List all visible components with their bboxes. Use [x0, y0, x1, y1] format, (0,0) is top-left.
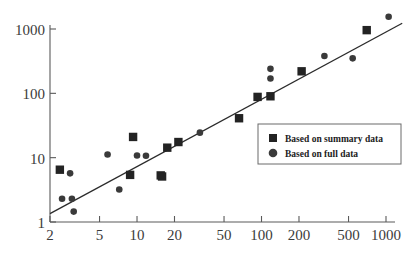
data-point-circle: [70, 208, 77, 215]
fit-line: [50, 23, 402, 213]
plot-area: 251020501002005001000 1101001000 Based o…: [0, 0, 419, 265]
x-tick-label: 10: [130, 227, 145, 243]
y-tick-label: 10: [30, 151, 45, 167]
data-point-square: [266, 92, 274, 100]
data-point-circle: [134, 152, 141, 159]
x-tick-label: 20: [167, 227, 182, 243]
y-tick-label: 1: [38, 215, 46, 231]
data-point-circle: [59, 195, 66, 202]
data-point-square: [253, 93, 261, 101]
data-point-circle: [116, 186, 123, 193]
x-axis-ticks: 251020501002005001000: [46, 216, 401, 243]
legend-marker-square: [269, 134, 277, 142]
y-tick-label: 1000: [15, 22, 45, 38]
data-point-square: [129, 133, 137, 141]
data-point-square: [126, 171, 134, 179]
data-point-square: [363, 26, 371, 34]
data-point-square: [56, 166, 64, 174]
data-point-circle: [267, 66, 274, 73]
legend-label-full: Based on full data: [285, 149, 358, 159]
x-tick-label: 100: [250, 227, 273, 243]
data-point-square: [174, 138, 182, 146]
data-points: [56, 13, 392, 214]
data-point-circle: [321, 53, 328, 60]
data-point-circle: [385, 13, 392, 20]
data-point-circle: [267, 75, 274, 82]
data-point-square: [235, 114, 243, 122]
data-point-circle: [197, 129, 204, 136]
x-tick-label: 500: [337, 227, 360, 243]
data-point-square: [163, 143, 171, 151]
data-point-circle: [143, 152, 150, 159]
x-tick-label: 5: [96, 227, 104, 243]
data-point-circle: [67, 170, 74, 177]
x-tick-label: 50: [217, 227, 232, 243]
legend-marker-circle: [269, 149, 278, 158]
regression-line: [50, 23, 402, 213]
data-point-square: [158, 172, 166, 180]
x-tick-label: 1000: [371, 227, 401, 243]
chart-legend: Based on summary data Based on full data: [258, 124, 401, 164]
data-point-circle: [349, 55, 356, 62]
data-point-square: [297, 67, 305, 75]
x-tick-label: 2: [46, 227, 54, 243]
legend-label-summary: Based on summary data: [285, 134, 383, 144]
x-tick-label: 200: [288, 227, 311, 243]
scatter-chart: 251020501002005001000 1101001000 Based o…: [0, 0, 419, 265]
data-point-circle: [104, 151, 111, 158]
data-point-circle: [69, 195, 76, 202]
y-tick-label: 100: [23, 86, 46, 102]
